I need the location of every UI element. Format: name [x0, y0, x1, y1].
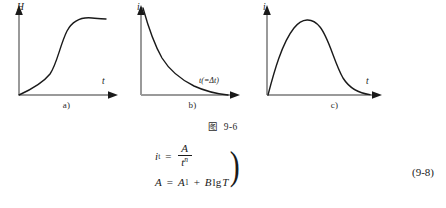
panel-c-curve — [268, 20, 370, 95]
panel-b-x-axis-label: t(=Δt) — [199, 76, 219, 85]
eq2-plus-operator: + — [194, 176, 200, 188]
eq1-denominator-exponent: n — [184, 155, 188, 164]
panel-a-caption: a) — [0, 100, 139, 110]
panel-c-x-axis-label: t — [366, 76, 369, 86]
eq2-term2-coefficient: B — [205, 176, 212, 188]
figure-caption: 图9-6 — [0, 119, 446, 133]
panel-b-plot — [124, 0, 269, 100]
panel-c-plot — [250, 0, 410, 100]
panel-c-caption: c) — [262, 100, 407, 110]
eq1-denominator: tn — [178, 156, 191, 169]
equation-line-1: it = A tn — [155, 142, 228, 170]
panel-b-y-axis-label: i — [137, 2, 140, 12]
panel-a-y-axis — [15, 5, 23, 95]
panel-c-y-axis-label: i — [263, 2, 266, 12]
panel-c-y-axis — [263, 5, 271, 95]
equation-grouping-brace: ) — [230, 140, 240, 192]
eq2-lhs-symbol: A — [155, 176, 162, 188]
eq1-lhs-subscript: t — [158, 152, 160, 161]
panel-a-y-axis-label: H — [17, 2, 24, 12]
equation-line-2: A = A1 + BlgT — [155, 170, 228, 194]
figure-panel-c: i t c) — [250, 0, 395, 118]
equation-number: (9-8) — [412, 166, 434, 178]
figure-caption-number: 9-6 — [224, 122, 238, 132]
eq2-term1-symbol: A — [178, 176, 185, 188]
eq2-term2-function: lg — [213, 176, 222, 188]
panel-b-y-axis — [137, 5, 145, 95]
panel-b-caption: b) — [120, 100, 265, 110]
panel-c-x-axis — [267, 91, 382, 99]
eq2-term1-subscript: 1 — [185, 178, 189, 187]
eq1-operator: = — [165, 150, 171, 162]
figure-panel-b: i t(=Δt) b) — [124, 0, 269, 118]
eq1-fraction: A tn — [178, 143, 192, 168]
eq1-numerator: A — [178, 143, 191, 155]
eq2-operator: = — [167, 176, 173, 188]
panel-a-curve — [19, 18, 106, 95]
equation-9-8-block: it = A tn A = A1 + BlgT ) (9-8) — [0, 140, 446, 202]
panel-a-x-axis-label: t — [102, 76, 105, 86]
panel-a-x-axis — [19, 91, 118, 99]
eq2-term2-variable: T — [222, 176, 228, 188]
equation-stack: it = A tn A = A1 + BlgT — [155, 142, 228, 194]
figure-9-6: H t a) i t(=Δt) b) — [0, 0, 446, 118]
figure-caption-prefix: 图 — [208, 122, 219, 132]
